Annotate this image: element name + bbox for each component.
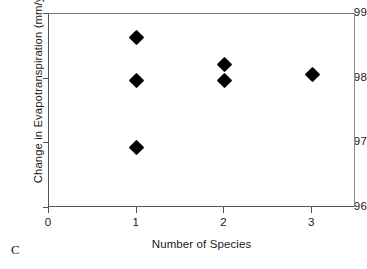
- x-tick-mark: [48, 207, 49, 213]
- data-point-marker: [129, 73, 145, 89]
- plot-area: [48, 13, 355, 207]
- x-tick-label: 0: [33, 216, 63, 228]
- scatter-plot-figure: Change in Evapotranspiration (mm/yr) 969…: [0, 0, 367, 269]
- panel-letter: C: [11, 243, 20, 257]
- data-point-marker: [304, 67, 320, 83]
- y-axis-title: Change in Evapotranspiration (mm/yr): [32, 0, 44, 194]
- x-tick-label: 3: [296, 216, 326, 228]
- data-point-marker: [129, 140, 145, 156]
- data-point-marker: [129, 30, 145, 46]
- x-tick-mark: [311, 207, 312, 213]
- x-tick-label: 1: [121, 216, 151, 228]
- x-tick-mark: [136, 207, 137, 213]
- x-tick-label: 2: [208, 216, 238, 228]
- data-point-marker: [217, 57, 233, 73]
- x-axis-title: Number of Species: [48, 238, 355, 251]
- x-tick-mark: [223, 207, 224, 213]
- data-point-marker: [217, 73, 233, 89]
